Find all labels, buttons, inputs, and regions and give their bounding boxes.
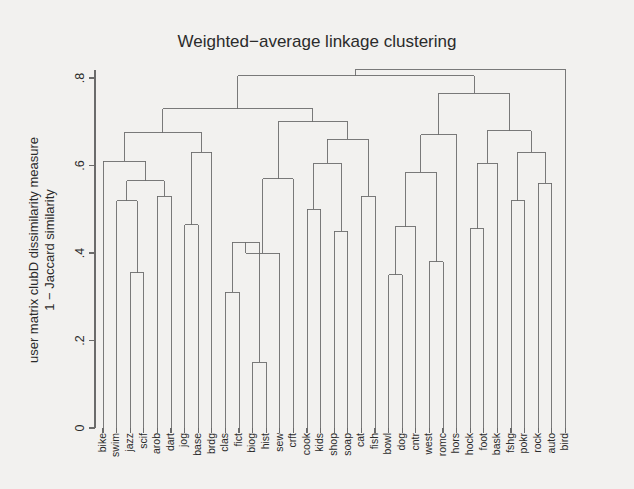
leaf-label: crft bbox=[286, 433, 298, 448]
leaf-label: bird bbox=[558, 433, 570, 451]
y-tick-label: .2 bbox=[73, 335, 87, 345]
dendrogram-link bbox=[253, 362, 267, 428]
leaf-label: sew bbox=[273, 433, 285, 452]
leaf-label: fict bbox=[232, 433, 244, 447]
dendrogram-link bbox=[389, 275, 403, 428]
leaf-label: cntr bbox=[409, 433, 421, 451]
dendrogram-link bbox=[406, 172, 437, 262]
dendrogram-link bbox=[130, 273, 144, 428]
dendrogram-link bbox=[487, 131, 531, 164]
dendrogram-link bbox=[263, 179, 294, 428]
dendrogram-link bbox=[395, 227, 415, 428]
leaf-label: base bbox=[191, 433, 203, 456]
leaf-label: dart bbox=[164, 433, 176, 451]
dendrogram-link bbox=[470, 229, 484, 428]
leaf-label: romc bbox=[436, 433, 448, 456]
dendrogram-link bbox=[278, 122, 348, 179]
leaf-label: soap bbox=[341, 433, 353, 456]
leaf-label: hors bbox=[449, 433, 461, 453]
dendrogram-figure: Weighted−average linkage clustering 0.2.… bbox=[0, 0, 634, 489]
dendrogram-link bbox=[421, 135, 457, 428]
dendrogram-plot: Weighted−average linkage clustering 0.2.… bbox=[0, 0, 634, 489]
leaf-label: shop bbox=[327, 433, 339, 456]
dendrogram-link bbox=[124, 133, 201, 161]
leaf-label: bike bbox=[96, 433, 108, 452]
leaf-label: swim bbox=[109, 433, 121, 457]
leaf-label: cat bbox=[354, 433, 366, 447]
y-axis: 0.2.4.6.8 bbox=[73, 70, 95, 431]
dendrogram-link bbox=[511, 201, 525, 429]
dendrogram-link bbox=[225, 292, 239, 428]
dendrogram-link bbox=[232, 242, 259, 362]
y-tick-label: .8 bbox=[73, 73, 87, 83]
leaf-label: dog bbox=[395, 433, 407, 451]
leaf-label: brdg bbox=[205, 433, 217, 454]
leaf-label: kids bbox=[313, 433, 325, 452]
leaf-labels: bikeswimjazzscifarobdartjogbasebrdgclasf… bbox=[96, 428, 570, 457]
leaf-label: scif bbox=[137, 433, 149, 449]
dendrogram-link bbox=[163, 109, 313, 133]
leaf-label: fish bbox=[368, 433, 380, 450]
leaf-label: hock bbox=[463, 432, 475, 455]
y-tick-label: .4 bbox=[73, 248, 87, 258]
leaf-label: west bbox=[422, 433, 434, 456]
dendrogram-link bbox=[307, 209, 321, 428]
dendrogram-link bbox=[185, 225, 199, 428]
leaf-label: hist bbox=[259, 433, 271, 449]
y-tick-label: .6 bbox=[73, 160, 87, 170]
dendrogram-link bbox=[127, 181, 164, 201]
dendrogram-link bbox=[356, 69, 565, 428]
dendrogram-link bbox=[439, 93, 510, 135]
dendrogram-link bbox=[246, 242, 280, 428]
dendrogram-link bbox=[103, 161, 146, 428]
leaf-label: fshg bbox=[504, 433, 516, 453]
leaf-label: foot bbox=[477, 433, 489, 451]
dendrogram-link bbox=[191, 152, 211, 428]
dendrogram-link bbox=[361, 196, 375, 428]
y-tick-label: 0 bbox=[73, 424, 87, 431]
dendrogram-link bbox=[518, 152, 545, 200]
leaf-label: jog bbox=[177, 433, 189, 448]
dendrogram-link bbox=[538, 183, 552, 428]
y-axis-label: user matrix clubD dissimilarity measure bbox=[26, 137, 41, 363]
leaf-label: bask bbox=[490, 432, 502, 455]
y-axis-label: 1 − Jaccard similarity bbox=[42, 189, 57, 311]
leaf-label: jazz bbox=[123, 433, 135, 453]
dendrogram-link bbox=[157, 196, 171, 428]
dendrogram-link bbox=[314, 163, 341, 231]
dendrogram-link bbox=[327, 139, 368, 196]
chart-title-group: Weighted−average linkage clustering bbox=[178, 32, 457, 51]
leaf-label: cook bbox=[300, 432, 312, 455]
leaf-label: bowl bbox=[381, 433, 393, 455]
chart-title: Weighted−average linkage clustering bbox=[178, 32, 457, 51]
leaf-label: biog bbox=[245, 433, 257, 453]
dendrogram-link bbox=[117, 201, 137, 429]
leaf-label: pokr bbox=[517, 433, 529, 454]
leaf-label: clas bbox=[218, 433, 230, 452]
y-axis-label-group: user matrix clubD dissimilarity measure1… bbox=[26, 137, 57, 363]
leaf-label: arob bbox=[150, 433, 162, 454]
dendrogram-link bbox=[429, 262, 443, 428]
dendrogram-link bbox=[334, 231, 348, 428]
leaf-label: rock bbox=[531, 432, 543, 453]
dendrogram-tree bbox=[103, 69, 565, 428]
dendrogram-link bbox=[477, 163, 497, 428]
leaf-label: auto bbox=[545, 433, 557, 454]
